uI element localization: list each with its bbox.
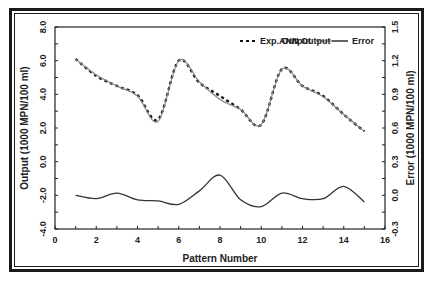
x-tick-label: 10 — [256, 235, 266, 245]
y2-tick-label: 0.3 — [390, 155, 400, 168]
y-tick-label: 0.0 — [38, 155, 48, 168]
y2-tick-label: 1.2 — [390, 54, 400, 67]
legend: Exp. Output ANN Output Error — [240, 36, 375, 46]
line-chart: 0246810121416-4.0-2.00.02.04.06.08.0-0.3… — [0, 0, 436, 281]
y-tick-label: -2.0 — [38, 188, 48, 204]
x-tick-label: 12 — [297, 235, 307, 245]
series-error — [76, 175, 365, 207]
x-tick-label: 8 — [217, 235, 222, 245]
x-tick-label: 16 — [380, 235, 390, 245]
y-tick-label: 6.0 — [38, 54, 48, 67]
y-axis-label: Output (1000 MPN/100 ml) — [19, 66, 30, 189]
plot-area — [55, 27, 385, 229]
y-tick-label: 8.0 — [38, 21, 48, 34]
y-tick-label: 2.0 — [38, 122, 48, 135]
x-tick-label: 0 — [52, 235, 57, 245]
x-tick-label: 4 — [135, 235, 140, 245]
x-tick-label: 2 — [94, 235, 99, 245]
y2-axis-label: Error (1000 MPN/100 ml) — [405, 70, 416, 185]
y2-tick-label: 0.0 — [390, 189, 400, 202]
y2-tick-label: 0.9 — [390, 88, 400, 101]
y-tick-label: 4.0 — [38, 88, 48, 101]
y2-tick-label: 0.6 — [390, 122, 400, 135]
x-tick-label: 6 — [176, 235, 181, 245]
series-ann-output — [76, 59, 365, 131]
y-tick-label: -4.0 — [38, 221, 48, 237]
y2-tick-label: -0.3 — [390, 221, 400, 237]
y2-tick-label: 1.5 — [390, 21, 400, 34]
x-tick-label: 14 — [339, 235, 349, 245]
x-axis-label: Pattern Number — [182, 253, 257, 264]
legend-error-label: Error — [352, 36, 375, 46]
legend-ann-label: ANN Output — [279, 36, 331, 46]
